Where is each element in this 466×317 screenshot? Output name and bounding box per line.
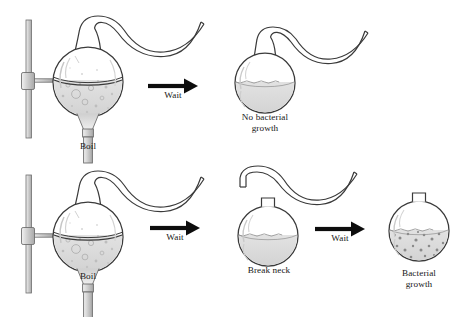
clean-flask <box>232 52 298 114</box>
label-wait-2: Wait <box>145 232 205 242</box>
pasteur-experiment-figure: Boil Wait No bacterial growth Boil Wait … <box>0 0 466 317</box>
label-no-bacterial-growth: No bacterial growth <box>222 112 308 134</box>
label-bacterial-growth: Bacterial growth <box>382 268 456 290</box>
broken-neck-flask <box>235 205 303 267</box>
swan-neck-flask-1 <box>53 47 123 117</box>
contaminated-flask <box>386 192 452 262</box>
burner-2 <box>80 273 98 299</box>
burner-1 <box>80 118 98 144</box>
swan-neck-flask-2 <box>53 202 123 272</box>
label-wait-3: Wait <box>310 233 370 243</box>
label-wait-1: Wait <box>143 90 203 100</box>
